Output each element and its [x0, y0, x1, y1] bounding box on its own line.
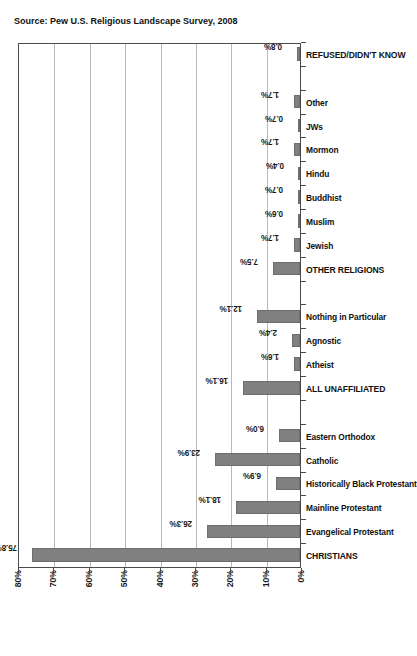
category-label: Mainline Protestant	[306, 503, 381, 513]
category-axis-tick	[301, 137, 306, 138]
bar-slot: 1.7%	[19, 233, 300, 257]
value-axis-tick-label: 10%	[261, 570, 271, 610]
value-axis-tick	[124, 568, 125, 574]
bar[interactable]	[294, 95, 300, 108]
bar[interactable]	[257, 310, 300, 323]
bar-slot: 6.0%	[19, 424, 300, 448]
bar-slot: 1.6%	[19, 352, 300, 376]
bar-slot: 1.7%	[19, 137, 300, 161]
bar-value-label: 6.9%	[243, 471, 261, 480]
value-axis-tick-label: 70%	[48, 570, 58, 610]
category-axis-tick	[301, 305, 306, 306]
category-axis-tick	[301, 448, 306, 449]
category-axis-tick	[301, 209, 306, 210]
category-label: Historically Black Protestant	[306, 479, 417, 489]
value-axis-tick	[230, 568, 231, 574]
bar-value-label: 18.1%	[199, 495, 221, 504]
bar[interactable]	[215, 453, 300, 466]
category-label: REFUSED/DIDN'T KNOW	[306, 50, 405, 60]
bar-slot: 7.5%	[19, 257, 300, 281]
category-label: Buddhist	[306, 193, 342, 203]
bar-value-label: 0.4%	[266, 161, 284, 170]
bar-slot: 0.8%	[19, 42, 300, 66]
bar-series: 75.8%26.3%18.1%6.9%23.9%6.0%16.1%1.6%2.4…	[19, 44, 300, 567]
bar-value-label: 1.6%	[261, 352, 279, 361]
bar-value-label: 1.7%	[261, 232, 279, 241]
value-axis-tick	[89, 568, 90, 574]
bar[interactable]	[243, 381, 300, 394]
bar[interactable]	[207, 525, 300, 538]
bar[interactable]	[298, 167, 300, 180]
bar[interactable]	[298, 214, 300, 227]
bar-slot: 18.1%	[19, 495, 300, 519]
bar[interactable]	[279, 429, 300, 442]
bar[interactable]	[298, 119, 300, 132]
category-label: Catholic	[306, 456, 338, 466]
bar-value-label: 7.5%	[241, 256, 259, 265]
bar-value-label: 0.6%	[265, 209, 283, 218]
bar-value-label: 0.8%	[264, 42, 282, 51]
bar-value-label: 1.7%	[261, 89, 279, 98]
bar[interactable]	[276, 477, 300, 490]
category-axis-tick	[301, 114, 306, 115]
value-axis-tick-label: 0%	[296, 570, 306, 610]
bar-value-label: 2.4%	[259, 328, 277, 337]
source-note: Source: Pew U.S. Religious Landscape Sur…	[14, 16, 237, 26]
bar-value-label: 1.7%	[261, 137, 279, 146]
value-axis-tick	[160, 568, 161, 574]
bar[interactable]	[292, 334, 300, 347]
value-axis-tick-label: 50%	[119, 570, 129, 610]
category-label: Evangelical Protestant	[306, 527, 394, 537]
category-axis-tick	[301, 352, 306, 353]
category-label: Hindu	[306, 169, 329, 179]
value-axis-tick	[53, 568, 54, 574]
bar[interactable]	[32, 548, 300, 561]
bar-value-label: 23.9%	[178, 447, 200, 456]
bar[interactable]	[294, 357, 300, 370]
bar-value-label: 26.3%	[170, 519, 192, 528]
value-axis-tick-label: 30%	[190, 570, 200, 610]
bar-slot: 16.1%	[19, 376, 300, 400]
category-axis-tick	[301, 424, 306, 425]
bar-slot: 1.7%	[19, 90, 300, 114]
bar[interactable]	[297, 47, 300, 60]
category-axis-tick	[301, 90, 306, 91]
category-label: Agnostic	[306, 336, 341, 346]
category-label: Muslim	[306, 217, 334, 227]
category-label: JWs	[306, 122, 323, 132]
bar-value-label: 75.8%	[0, 543, 17, 552]
category-label: Jewish	[306, 241, 333, 251]
bar-slot	[19, 400, 300, 424]
bar[interactable]	[294, 143, 300, 156]
category-axis-tick	[301, 281, 306, 282]
bar-slot: 0.7%	[19, 114, 300, 138]
value-axis-tick	[195, 568, 196, 574]
bar[interactable]	[236, 501, 300, 514]
bar-value-label: 0.7%	[265, 185, 283, 194]
bar-slot: 23.9%	[19, 448, 300, 472]
value-axis-tick	[266, 568, 267, 574]
bar-value-label: 16.1%	[206, 376, 228, 385]
category-label: Eastern Orthodox	[306, 432, 375, 442]
bar-value-label: 0.7%	[265, 113, 283, 122]
bar[interactable]	[294, 238, 300, 251]
bar-slot: 0.7%	[19, 185, 300, 209]
bar-slot: 6.9%	[19, 472, 300, 496]
plot-frame: 75.8%26.3%18.1%6.9%23.9%6.0%16.1%1.6%2.4…	[18, 43, 301, 568]
bar[interactable]	[298, 190, 300, 203]
bar-value-label: 6.0%	[246, 423, 264, 432]
bar-slot: 75.8%	[19, 543, 300, 567]
value-axis-tick-label: 60%	[84, 570, 94, 610]
category-axis-tick	[301, 257, 306, 258]
bar[interactable]	[273, 262, 300, 275]
bar-value-label: 12.1%	[220, 304, 242, 313]
value-axis-tick	[301, 568, 302, 574]
bar-slot	[19, 281, 300, 305]
category-label: Atheist	[306, 360, 334, 370]
category-axis-tick	[301, 376, 306, 377]
category-axis-tick	[301, 495, 306, 496]
category-axis-tick	[301, 400, 306, 401]
category-label: ALL UNAFFILIATED	[306, 384, 385, 394]
